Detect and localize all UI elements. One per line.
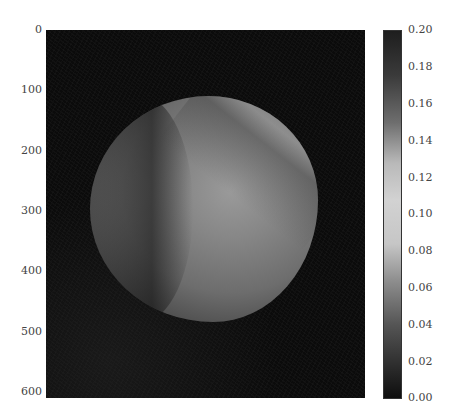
y-tick-label: 0 [35,24,42,36]
colorbar-tick-label: 0.08 [408,245,433,257]
colorbar [383,30,402,399]
y-tick-label: 100 [21,84,42,96]
colorbar-tick-label: 0.06 [408,282,433,294]
sphere-object [90,96,318,322]
y-tick-label: 400 [21,265,42,277]
image-plot-area [46,30,365,398]
colorbar-tick-label: 0.02 [408,356,433,368]
y-tick-label: 600 [21,386,42,398]
colorbar-tick-label: 0.14 [408,135,433,147]
y-tick-label: 500 [21,326,42,338]
colorbar-tick-label: 0.10 [408,208,433,220]
colorbar-tick-label: 0.12 [408,172,433,184]
colorbar-tick-label: 0.20 [408,24,433,36]
colorbar-tick-label: 0.04 [408,319,433,331]
colorbar-tick-label: 0.00 [408,392,433,404]
y-tick-label: 200 [21,145,42,157]
colorbar-tick-label: 0.16 [408,98,433,110]
colorbar-tick-label: 0.18 [408,61,433,73]
y-tick-label: 300 [21,205,42,217]
